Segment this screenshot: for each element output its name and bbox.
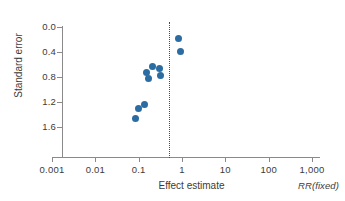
data-point — [157, 72, 164, 79]
x-tick-label: 1,000 — [282, 165, 342, 175]
x-tick-mark — [182, 157, 183, 162]
x-tick-mark — [269, 157, 270, 162]
scatter-plot-area — [63, 22, 320, 157]
x-tick-mark — [95, 157, 96, 162]
funnel-plot-figure: 0.00.40.81.21.6 0.0010.010.11101001,000 … — [0, 0, 345, 201]
y-axis-title: Standard error — [13, 1, 24, 131]
data-point — [132, 115, 139, 122]
y-tick-mark — [57, 52, 62, 53]
x-axis-title: Effect estimate — [63, 180, 320, 191]
x-tick-mark — [312, 157, 313, 162]
x-tick-mark — [52, 157, 53, 162]
data-point — [145, 75, 152, 82]
data-point — [177, 48, 184, 55]
y-tick-mark — [57, 127, 62, 128]
data-point — [156, 65, 163, 72]
y-tick-mark — [57, 102, 62, 103]
x-axis-line — [52, 157, 320, 158]
x-tick-mark — [139, 157, 140, 162]
y-tick-mark — [57, 27, 62, 28]
y-tick-mark — [57, 77, 62, 78]
x-tick-mark — [225, 157, 226, 162]
model-annotation: RR(fixed) — [298, 180, 339, 191]
